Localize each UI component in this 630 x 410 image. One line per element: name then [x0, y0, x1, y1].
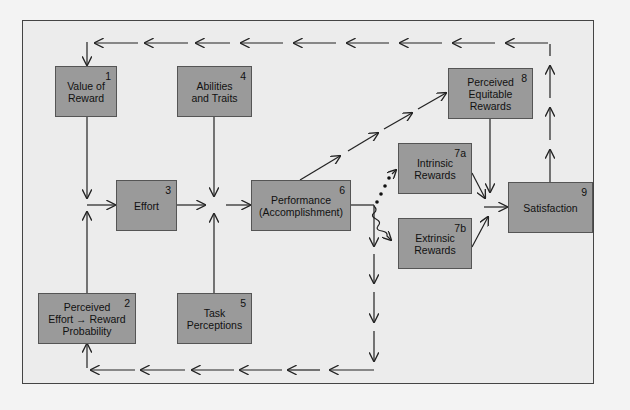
- node-label: Value of Reward: [67, 80, 105, 104]
- node-extrinsic-rewards: 7b Extrinsic Rewards: [398, 218, 472, 269]
- node-number: 4: [240, 70, 246, 82]
- node-intrinsic-rewards: 7a Intrinsic Rewards: [398, 143, 472, 194]
- node-task-perceptions: 5 Task Perceptions: [177, 293, 252, 344]
- node-number: 7a: [454, 147, 466, 159]
- node-abilities-and-traits: 4 Abilities and Traits: [177, 66, 252, 117]
- node-number: 3: [165, 184, 171, 196]
- node-label: Abilities and Traits: [191, 80, 237, 104]
- node-label: Performance (Accomplishment): [259, 194, 343, 218]
- node-label: Intrinsic Rewards: [414, 157, 455, 181]
- node-satisfaction: 9 Satisfaction: [508, 182, 593, 233]
- node-number: 5: [240, 297, 246, 309]
- node-number: 8: [521, 72, 527, 84]
- node-number: 2: [124, 297, 130, 309]
- node-number: 9: [581, 186, 587, 198]
- node-effort: 3 Effort: [116, 180, 177, 231]
- node-perceived-effort-reward-probability: 2 Perceived Effort → Reward Probability: [38, 293, 136, 344]
- node-label: Task Perceptions: [187, 307, 242, 331]
- node-label: Perceived Equitable Rewards: [467, 76, 514, 112]
- node-label: Satisfaction: [523, 202, 577, 214]
- node-value-of-reward: 1 Value of Reward: [55, 66, 117, 117]
- node-label: Effort: [134, 200, 159, 212]
- node-number: 7b: [454, 222, 466, 234]
- node-label: Perceived Effort → Reward Probability: [48, 301, 125, 337]
- node-perceived-equitable-rewards: 8 Perceived Equitable Rewards: [448, 68, 533, 119]
- node-performance: 6 Performance (Accomplishment): [251, 180, 351, 231]
- node-label: Extrinsic Rewards: [414, 232, 455, 256]
- node-number: 1: [105, 70, 111, 82]
- node-number: 6: [339, 184, 345, 196]
